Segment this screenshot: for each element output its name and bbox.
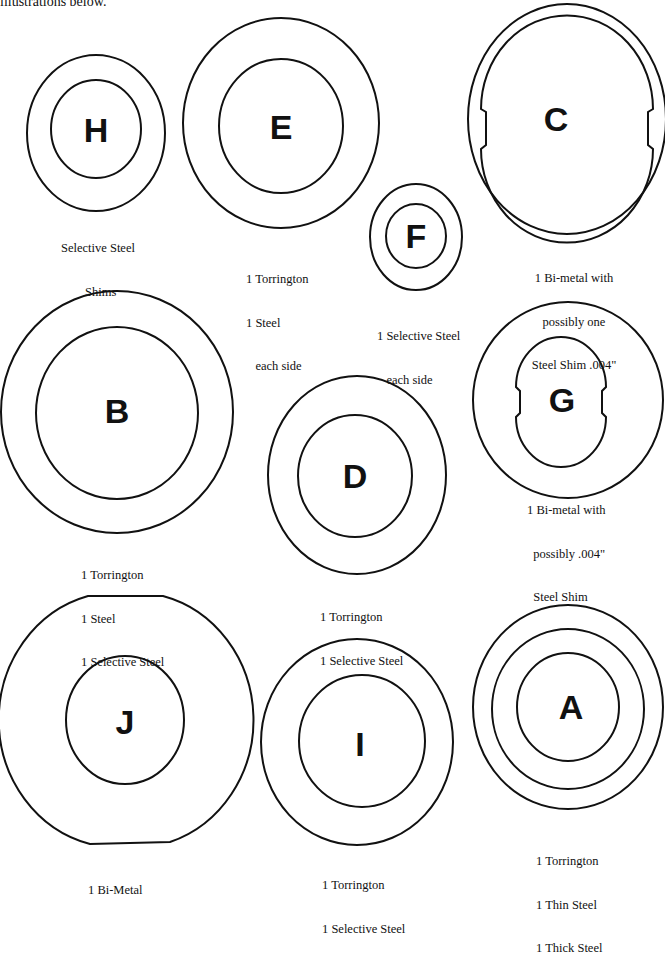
label-line: 1 Selective Steel [320,654,403,669]
washer-d: D [268,376,446,574]
label-line: Steel Shim .004" [514,358,634,373]
label-line: Steel Shim [527,590,605,605]
label-line: 1 Torrington [322,878,405,893]
label-line: Selective Steel [61,241,135,256]
label-line: 1 Steel [81,612,164,627]
label-line: each side [377,373,460,388]
washer-h-letter: H [84,111,109,149]
washer-c-letter: C [544,100,569,138]
washer-b-label: 1 Torrington 1 Steel 1 Selective Steel [81,539,164,684]
washer-e-label: 1 Torrington 1 Steel each side [246,243,308,388]
label-line: 1 Thick Steel [536,941,602,956]
washer-d-letter: D [343,457,368,495]
washer-e: E [183,18,379,228]
washer-f-label: 1 Selective Steel each side [377,300,460,402]
label-line: 1 Selective Steel [81,655,164,670]
washer-g-label: 1 Bi-metal with possibly .004" Steel Shi… [527,474,605,619]
washer-f: F [370,184,462,290]
label-line: 1 Selective Steel [322,922,405,937]
washer-h: H [27,55,165,211]
label-line: Shims [61,285,135,300]
washer-d-label: 1 Torrington 1 Selective Steel [320,581,403,683]
washer-f-letter: F [406,217,427,255]
label-line: 1 Torrington [536,854,602,869]
label-line: each side [246,359,308,374]
label-line: 1 Bi-Metal [88,883,143,898]
washer-c-label: 1 Bi-metal with possibly one Steel Shim … [514,242,634,387]
label-line: 1 Bi-metal with [527,503,605,518]
label-line: 1 Selective Steel [377,329,460,344]
washer-i-label: 1 Torrington 1 Selective Steel [322,849,405,951]
washer-b-letter: B [105,392,130,430]
washer-a-letter: A [559,688,584,726]
label-line: possibly one [514,315,634,330]
washer-a: A [473,605,663,809]
label-line: 1 Steel [246,316,308,331]
label-line: 1 Torrington [320,610,403,625]
washer-j-label: 1 Bi-Metal [88,854,143,912]
washer-j-letter: J [116,703,135,741]
label-line: possibly .004" [527,547,605,562]
washer-c: C [468,4,665,243]
label-line: 1 Torrington [246,272,308,287]
label-line: 1 Torrington [81,568,164,583]
washer-i-letter: I [355,725,364,763]
washer-a-label: 1 Torrington 1 Thin Steel 1 Thick Steel [536,825,602,956]
washer-e-letter: E [270,108,293,146]
label-line: 1 Bi-metal with [514,271,634,286]
label-line: 1 Thin Steel [536,898,602,913]
washer-b: B [1,291,233,533]
washer-h-label: Selective Steel Shims [61,212,135,314]
